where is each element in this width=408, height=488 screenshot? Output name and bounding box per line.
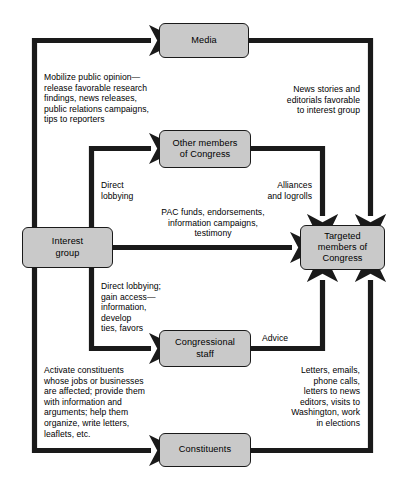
- caption-news-stories: News stories and editorials favorable to…: [232, 84, 360, 116]
- caption-activate-constituents: Activate constituents whose jobs or busi…: [44, 365, 199, 439]
- interest-group-influence-diagram: Media Other members of Congress Interest…: [0, 0, 408, 488]
- node-targeted-members-of-congress[interactable]: Targeted members of Congress: [300, 225, 385, 270]
- node-other-members-of-congress[interactable]: Other members of Congress: [159, 130, 251, 168]
- caption-mobilize-public-opinion: Mobilize public opinion— release favorab…: [44, 72, 194, 125]
- caption-pac-funds: PAC funds, endorsements, information cam…: [133, 207, 293, 239]
- caption-direct-lobbying: Direct lobbying: [101, 180, 171, 201]
- caption-letters-emails: Letters, emails, phone calls, letters to…: [240, 365, 360, 429]
- caption-alliances-and-logrolls: Alliances and logrolls: [242, 180, 312, 201]
- node-interest-group[interactable]: Interest group: [22, 227, 113, 268]
- caption-advice: Advice: [262, 333, 312, 344]
- caption-direct-lobbying-gain-access: Direct lobbying; gain access— informatio…: [101, 281, 193, 334]
- node-congressional-staff[interactable]: Congressional staff: [159, 330, 251, 367]
- node-media[interactable]: Media: [159, 23, 249, 58]
